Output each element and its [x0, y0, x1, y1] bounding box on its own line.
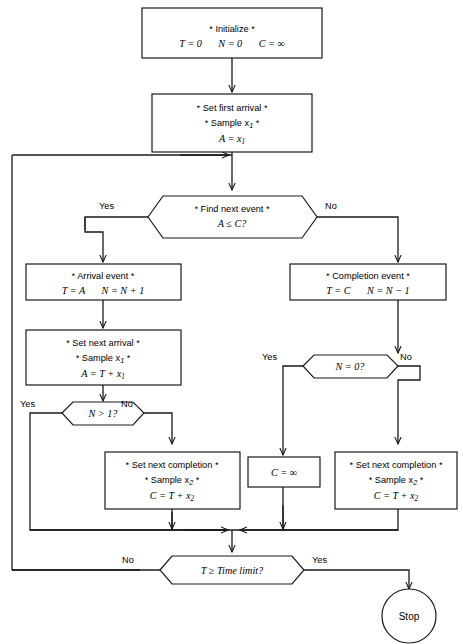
node-arrival-event-line1: * Arrival event * [72, 271, 135, 281]
node-find-next-event-shape [148, 196, 317, 238]
edge-find-next-event-no [317, 217, 398, 262]
node-initialize[interactable]: * Initialize * T = 0 N = 0 C = ∞ [142, 8, 322, 58]
edge-n-eq-0-yes [283, 366, 303, 455]
node-initialize-N: N = 0 [217, 38, 242, 49]
flowchart-canvas: * Initialize * T = 0 N = 0 C = ∞ * Set f… [0, 0, 463, 644]
sna-assign: A = T + x [80, 368, 121, 379]
label-n-eq-0-no: No [400, 352, 412, 362]
node-n-gt-1[interactable]: N > 1? Yes No [20, 399, 144, 425]
label-n-gt-1-no: No [121, 399, 133, 409]
sncr-sample-end: * [417, 475, 424, 485]
sna-assign-sub: 1 [121, 373, 125, 381]
node-initialize-line2: T = 0 N = 0 C = ∞ [179, 38, 285, 49]
label-find-next-event-no: No [325, 201, 337, 211]
node-n-eq-0-line1: N = 0? [335, 361, 366, 372]
node-set-first-arrival[interactable]: * Set first arrival * * Sample x1 * A = … [152, 94, 312, 152]
ae-T: T = A [62, 285, 86, 296]
node-stop[interactable]: Stop [382, 589, 436, 643]
node-c-infinity[interactable]: C = ∞ [248, 457, 320, 487]
node-stop-label: Stop [399, 611, 420, 622]
ce-T: T = C [326, 285, 350, 296]
node-n-gt-1-line1: N > 1? [88, 408, 119, 419]
node-set-next-arrival[interactable]: * Set next arrival * * Sample x1 * A = T… [26, 330, 181, 385]
sna-sample-text: * Sample x [76, 353, 121, 363]
edge-n-eq-0-no [398, 366, 420, 444]
edge-find-next-event-yes [85, 217, 148, 262]
sfa-sample-end: * [253, 118, 260, 128]
node-initialize-C: C = ∞ [259, 38, 285, 49]
label-find-next-event-yes: Yes [99, 201, 114, 211]
node-completion-event-line1: * Completion event * [326, 271, 410, 281]
node-set-next-arrival-line1: * Set next arrival * [66, 338, 140, 348]
label-time-limit-no: No [122, 555, 134, 565]
sncr-assign: C = T + x [374, 490, 415, 501]
sfa-assign: A = x [218, 133, 242, 144]
ce-N: N = N − 1 [366, 285, 410, 296]
node-snc-right-line1: * Set next completion * [350, 460, 443, 470]
edge-time-limit-yes [304, 570, 409, 589]
edge-n-gt-1-no [144, 413, 172, 444]
sncr-assign-sub: 2 [415, 495, 419, 503]
ae-N: N = N + 1 [101, 285, 145, 296]
node-arrival-event-line2: T = A N = N + 1 [62, 285, 144, 296]
node-find-next-event-line1: * Find next event * [194, 204, 269, 214]
node-initialize-T: T = 0 [179, 38, 202, 49]
sfa-assign-sub: 1 [241, 138, 245, 146]
node-completion-event-line2: T = C N = N − 1 [326, 285, 409, 296]
node-initialize-line1: * Initialize * [209, 24, 255, 34]
sncl-sample-end: * [193, 475, 200, 485]
node-completion-event[interactable]: * Completion event * T = C N = N − 1 [290, 264, 446, 300]
flowchart-svg: * Initialize * T = 0 N = 0 C = ∞ * Set f… [0, 0, 463, 644]
sncl-assign: C = T + x [150, 490, 191, 501]
node-set-next-completion-right[interactable]: * Set next completion * * Sample x2 * C … [335, 452, 457, 509]
sncl-sample-text: * Sample x [145, 475, 190, 485]
node-time-limit-line1: T ≥ Time limit? [201, 565, 264, 576]
edge-set-next-completion-right-to-bar [240, 509, 398, 530]
node-find-next-event-line2: A ≤ C? [217, 218, 248, 229]
label-n-eq-0-yes: Yes [262, 352, 277, 362]
sncr-sample-text: * Sample x [369, 475, 414, 485]
node-set-next-completion-left[interactable]: * Set next completion * * Sample x2 * C … [105, 452, 240, 509]
sfa-sample-text: * Sample x [205, 118, 250, 128]
node-set-first-arrival-line1: * Set first arrival * [197, 103, 268, 113]
node-n-eq-0[interactable]: N = 0? Yes No [262, 352, 412, 378]
sna-sample-end: * [124, 353, 131, 363]
label-time-limit-yes: Yes [312, 555, 327, 565]
node-arrival-event[interactable]: * Arrival event * T = A N = N + 1 [26, 264, 181, 300]
node-snc-left-line1: * Set next completion * [126, 460, 219, 470]
node-c-infinity-line1: C = ∞ [271, 467, 297, 478]
sncl-assign-sub: 2 [191, 495, 195, 503]
label-n-gt-1-yes: Yes [20, 399, 35, 409]
